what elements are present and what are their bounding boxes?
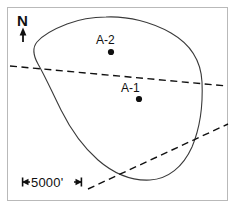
fault-trace-upper xyxy=(10,66,227,86)
closed-boundary-curve xyxy=(34,17,202,180)
well-label-a1: A-1 xyxy=(121,82,140,94)
north-label: N xyxy=(17,13,28,28)
well-label-a2: A-2 xyxy=(96,34,115,46)
scale-bar-label: 5000' xyxy=(31,176,63,189)
well-marker-a2[interactable] xyxy=(108,49,114,55)
map-figure: N A-2 A-1 5000' xyxy=(0,0,237,209)
north-arrow-icon xyxy=(20,28,27,43)
well-marker-a1[interactable] xyxy=(136,96,142,102)
